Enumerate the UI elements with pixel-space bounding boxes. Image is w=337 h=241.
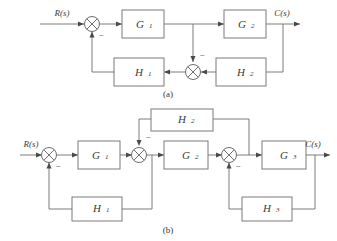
- sign-inner-summer-b: −: [145, 132, 150, 142]
- arrowhead-g2-in-a: [218, 22, 224, 27]
- block-g3-label-b: G: [280, 149, 288, 161]
- block-g2-label-a: G: [238, 18, 246, 30]
- arrowhead-summer2-top-b: [137, 140, 142, 146]
- arrowhead-summer1-bottom-b: [47, 163, 52, 169]
- caption-a: (a): [163, 89, 173, 99]
- block-h2-subscript-b: 2: [191, 117, 195, 125]
- summing-junction-input-b: [42, 148, 57, 163]
- block-h1-label-b: H: [92, 202, 102, 214]
- block-g1-subscript-a: 1: [149, 22, 153, 30]
- arrowhead-summer-right-a: [201, 70, 207, 75]
- arrowhead-h1-in-a: [164, 70, 170, 75]
- sign-input-summer-b: −: [55, 161, 60, 171]
- input-label-b: R(s): [23, 139, 39, 149]
- arrowhead-output-a: [294, 22, 300, 27]
- block-h2-label-b: H: [177, 113, 187, 125]
- input-label-a: R(s): [54, 8, 70, 18]
- sign-outer-summer-b: −: [235, 161, 240, 171]
- block-h3-label-b: H: [262, 202, 272, 214]
- wire-h1-tap-b: [122, 155, 152, 209]
- summing-junction-inner-b: [132, 148, 147, 163]
- summing-junction-outer-b: [222, 148, 237, 163]
- output-label-b: C(s): [305, 139, 321, 149]
- block-h1-subscript-b: 1: [106, 206, 110, 214]
- summing-junction-feedback-a: [186, 65, 201, 80]
- block-g3-subscript-b: 3: [292, 153, 297, 161]
- block-g2-subscript-b: 2: [195, 153, 199, 161]
- output-label-a: C(s): [274, 8, 290, 18]
- diagram-b: R(s) − G 1 − G 2: [0, 105, 337, 241]
- arrowhead-summer3-bottom-b: [227, 163, 232, 169]
- wire-output-tap-a: [266, 24, 283, 72]
- block-h1-label-a: H: [134, 66, 144, 78]
- arrowhead-input-a: [78, 22, 84, 27]
- sign-feedback-summer-a: −: [199, 50, 204, 60]
- arrowhead-g3-in-b: [256, 153, 262, 158]
- arrowhead-g1-in-a: [116, 22, 122, 27]
- sign-input-summer-a: −: [98, 30, 103, 40]
- block-h1-subscript-a: 1: [148, 70, 152, 78]
- caption-b: (b): [163, 225, 174, 235]
- block-h2-subscript-a: 2: [250, 70, 254, 78]
- block-g2-subscript-a: 2: [251, 22, 255, 30]
- block-g1-label-a: G: [136, 18, 144, 30]
- arrowhead-feedback-summer-top-a: [191, 56, 196, 62]
- block-g1-subscript-b: 1: [105, 153, 109, 161]
- block-g2-label-b: G: [182, 149, 190, 161]
- summing-junction-input-a: [85, 17, 100, 32]
- arrowhead-output-b: [324, 153, 330, 158]
- arrowhead-input-summer-bottom-a: [90, 32, 95, 38]
- block-diagram-figure: R(s) − G 1 − G 2 C(s) H: [0, 0, 337, 241]
- arrowhead-g2-in-b: [158, 153, 164, 158]
- block-h3-subscript-b: 3: [275, 206, 280, 214]
- block-g1-label-b: G: [92, 149, 100, 161]
- block-h2-label-a: H: [236, 66, 246, 78]
- arrowhead-g1-in-b: [72, 153, 78, 158]
- diagram-a: R(s) − G 1 − G 2 C(s) H: [0, 0, 337, 105]
